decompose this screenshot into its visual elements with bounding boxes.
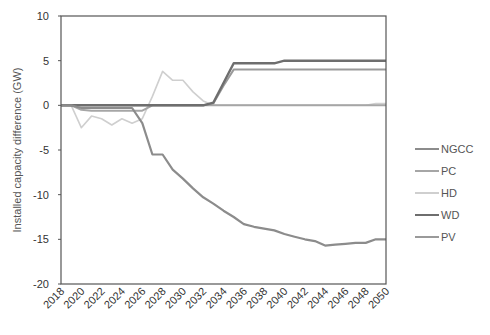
legend-swatch [415, 148, 439, 150]
y-axis-title: Installed capacity difference (GW) [11, 68, 23, 233]
x-tick-label: 2034 [203, 285, 229, 311]
series-line-ngcc [61, 105, 386, 245]
legend-label: WD [441, 209, 459, 221]
y-tick-label: -20 [33, 278, 49, 290]
y-tick-label: -5 [39, 144, 49, 156]
x-tick-label: 2022 [81, 285, 107, 311]
legend-item-wd: WD [415, 204, 473, 226]
x-tick-label: 2042 [284, 285, 310, 311]
legend-item-pv: PV [415, 226, 473, 248]
y-tick-label: 10 [37, 10, 49, 22]
legend-item-ngcc: NGCC [415, 138, 473, 160]
x-tick-label: 2026 [122, 285, 148, 311]
x-tick-label: 2028 [142, 285, 168, 311]
legend-swatch [415, 170, 439, 172]
y-tick-label: 5 [43, 55, 49, 67]
series-line-wd [61, 61, 386, 106]
x-tick-label: 2038 [244, 285, 270, 311]
legend-swatch [415, 214, 439, 216]
x-tick-label: 2048 [345, 285, 371, 311]
legend-label: PC [441, 165, 456, 177]
y-tick-label: -15 [33, 233, 49, 245]
legend-item-hd: HD [415, 182, 473, 204]
legend-label: NGCC [441, 143, 473, 155]
x-tick-label: 2030 [162, 285, 188, 311]
x-tick-label: 2046 [325, 285, 351, 311]
legend-label: HD [441, 187, 457, 199]
x-tick-label: 2040 [264, 285, 290, 311]
y-axis: 1050-5-10-15-20 [33, 10, 61, 290]
y-tick-label: -10 [33, 189, 49, 201]
legend: NGCC PC HD WD PV [415, 138, 473, 248]
x-tick-label: 2036 [223, 285, 249, 311]
x-tick-label: 2032 [183, 285, 209, 311]
legend-swatch [415, 192, 439, 194]
legend-label: PV [441, 231, 456, 243]
series-line-hd [61, 71, 386, 127]
legend-swatch [415, 236, 439, 238]
x-tick-label: 2020 [61, 285, 87, 311]
y-axis-label: Installed capacity difference (GW) [11, 68, 23, 233]
series-line-pv [61, 70, 386, 106]
legend-item-pc: PC [415, 160, 473, 182]
x-axis: 2018202020222024202620282030203220342036… [41, 285, 392, 311]
y-tick-label: 0 [43, 99, 49, 111]
series-lines [61, 61, 386, 246]
x-tick-label: 2044 [305, 285, 331, 311]
x-tick-label: 2024 [102, 285, 128, 311]
x-tick-label: 2050 [366, 285, 392, 311]
